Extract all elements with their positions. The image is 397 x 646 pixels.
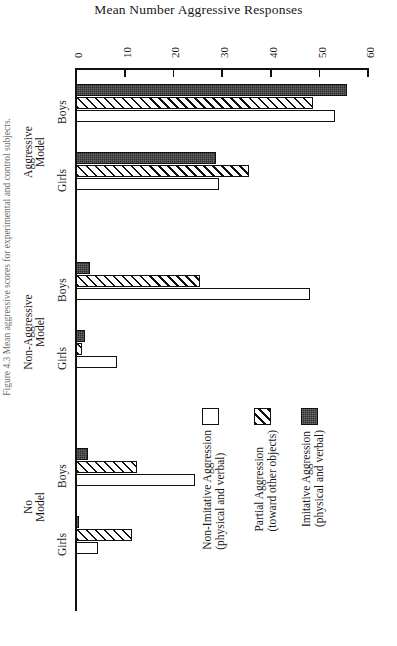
- bar: [76, 448, 88, 460]
- legend-label-main: Partial Aggression: [253, 430, 266, 532]
- sex-label: Girls: [56, 347, 68, 370]
- legend-label: Imitative Aggression(physical and verbal…: [300, 430, 326, 527]
- x-axis-tick-50: [319, 68, 321, 77]
- model-group-label: Non-AggressiveModel: [22, 284, 46, 380]
- bar: [76, 330, 85, 342]
- chart-legend: Imitative Aggression(physical and verbal…: [196, 408, 396, 623]
- x-axis-tick-40: [270, 68, 272, 77]
- model-group-label-line2: Model: [34, 492, 46, 522]
- legend-swatch-open: [202, 408, 219, 425]
- x-axis-tick-label-30: 30: [218, 47, 230, 58]
- x-axis-tick-label-0: 0: [72, 53, 84, 59]
- legend-label: Non-Imitative Aggression(physical and ve…: [201, 430, 227, 550]
- bar: [76, 288, 310, 300]
- bar: [76, 356, 117, 368]
- model-group-label-line1: No: [22, 500, 34, 514]
- model-group-label-line2: Model: [34, 317, 46, 347]
- bar: [76, 516, 79, 528]
- legend-swatch-solid: [301, 408, 318, 425]
- bar: [76, 529, 132, 541]
- bar: [76, 165, 249, 177]
- x-axis-tick-label-20: 20: [169, 47, 181, 58]
- legend-label-main: Non-Imitative Aggression: [201, 430, 214, 550]
- model-group-label-line1: Non-Aggressive: [22, 294, 34, 369]
- bar: [76, 343, 82, 355]
- bar: [76, 542, 98, 554]
- bar: [76, 461, 137, 473]
- sex-label: Boys: [56, 464, 68, 488]
- legend-label-sub: (physical and verbal): [313, 430, 326, 527]
- bar: [76, 275, 200, 287]
- sex-label: Boys: [56, 278, 68, 302]
- x-axis-tick-20: [173, 68, 175, 77]
- model-group-label-line1: Aggressive: [22, 126, 34, 178]
- x-axis-tick-label-10: 10: [121, 47, 133, 58]
- x-axis-tick-30: [221, 68, 223, 77]
- bar: [76, 474, 195, 486]
- model-group-label-line2: Model: [34, 137, 46, 167]
- figure-caption: Figure 4.3 Mean aggressive scores for ex…: [2, 118, 12, 396]
- model-group-label: NoModel: [22, 459, 46, 555]
- sex-label: Girls: [56, 533, 68, 556]
- legend-label: Partial Aggression(toward other objects): [253, 430, 279, 532]
- bar: [76, 97, 313, 109]
- x-axis-tick-60: [367, 68, 369, 77]
- legend-swatch-hatch: [254, 408, 271, 425]
- bar: [76, 84, 347, 96]
- x-axis-tick-0: [75, 68, 77, 77]
- bar: [76, 152, 216, 164]
- sex-label: Boys: [56, 100, 68, 124]
- bar: [76, 262, 90, 274]
- sex-label: Girls: [56, 169, 68, 192]
- legend-label-main: Imitative Aggression: [300, 430, 313, 527]
- x-axis-tick-10: [124, 68, 126, 77]
- x-axis-tick-label-40: 40: [267, 47, 279, 58]
- x-axis-tick-label-50: 50: [316, 47, 328, 58]
- x-axis-tick-label-60: 60: [364, 47, 376, 58]
- bar: [76, 110, 335, 122]
- legend-label-sub: (toward other objects): [266, 430, 279, 532]
- model-group-label: AggressiveModel: [22, 104, 46, 200]
- legend-label-sub: (physical and verbal): [214, 430, 227, 550]
- bar: [76, 178, 219, 190]
